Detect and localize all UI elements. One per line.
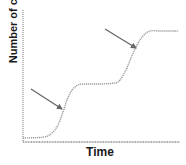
growth-curve-line bbox=[23, 31, 178, 138]
y-axis-label: Number of cells bbox=[6, 0, 20, 82]
arrow-icon bbox=[105, 29, 136, 48]
arrow-annotations bbox=[31, 29, 136, 109]
x-axis-label: Time bbox=[70, 145, 130, 159]
arrow-icon bbox=[31, 89, 62, 109]
growth-curve-chart bbox=[0, 0, 186, 165]
